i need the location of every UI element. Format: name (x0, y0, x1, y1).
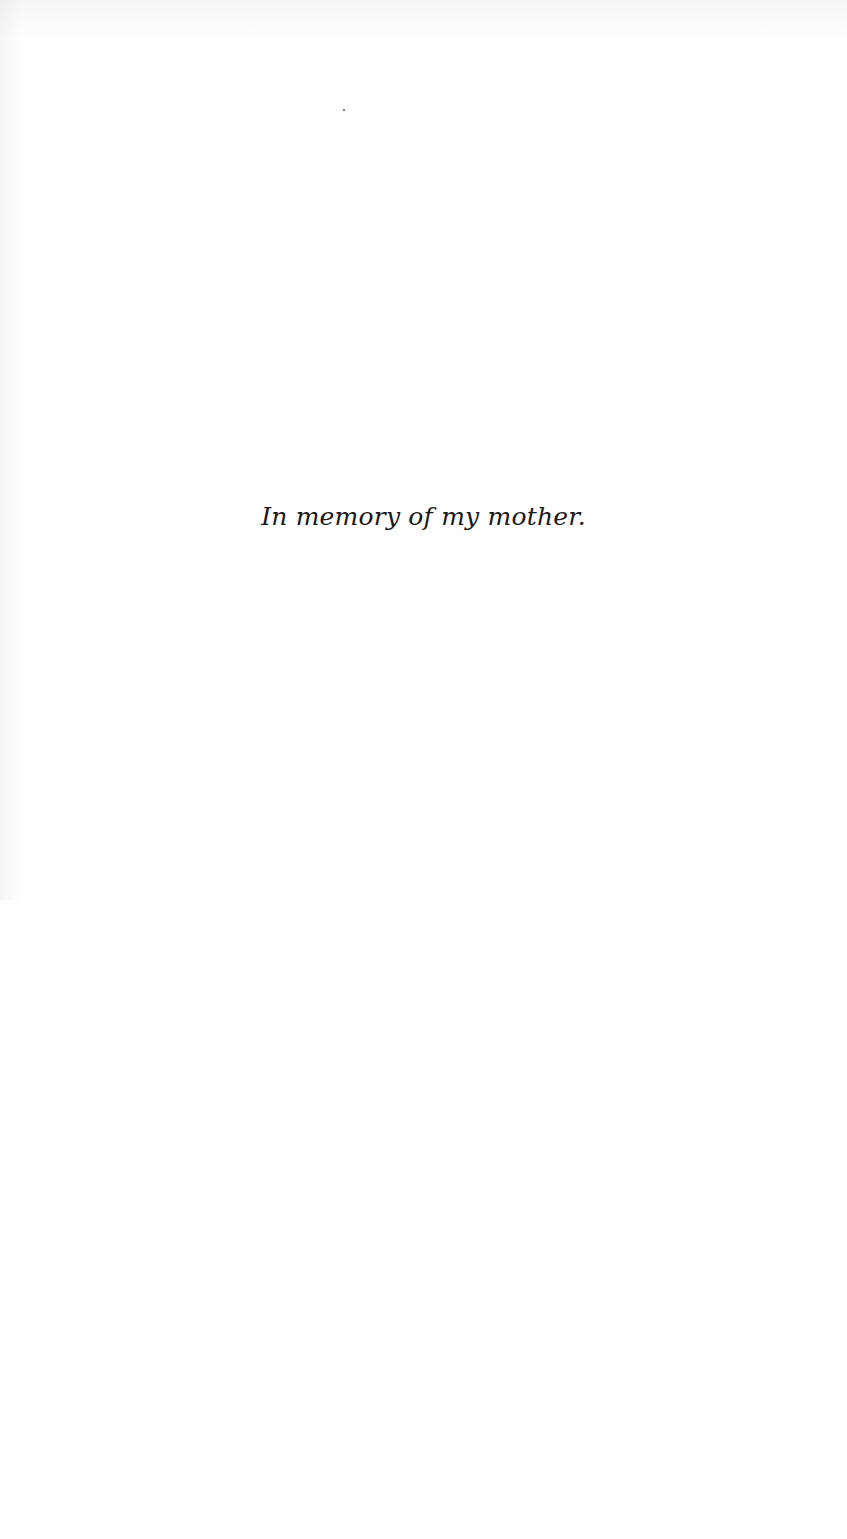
scan-speck (343, 109, 345, 111)
scan-edge-shadow (0, 0, 22, 900)
dedication-text: In memory of my mother. (0, 502, 847, 531)
scan-top-shadow (0, 0, 847, 40)
book-page: In memory of my mother. (0, 0, 847, 1539)
